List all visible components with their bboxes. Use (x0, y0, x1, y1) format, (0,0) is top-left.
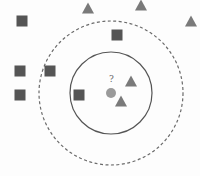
query-point (106, 88, 116, 98)
square-point (45, 66, 56, 77)
square-point (15, 66, 26, 77)
square-point (17, 16, 28, 27)
triangle-point (125, 76, 137, 87)
square-point (112, 30, 123, 41)
triangle-point (185, 16, 197, 27)
square-point (15, 90, 26, 101)
diagram-canvas: ? (0, 0, 200, 176)
square-point (74, 90, 85, 101)
knn-diagram: ? (0, 0, 200, 176)
query-label: ? (109, 74, 114, 84)
triangle-point (115, 96, 127, 107)
triangle-point (82, 3, 94, 14)
triangle-point (135, 0, 147, 11)
